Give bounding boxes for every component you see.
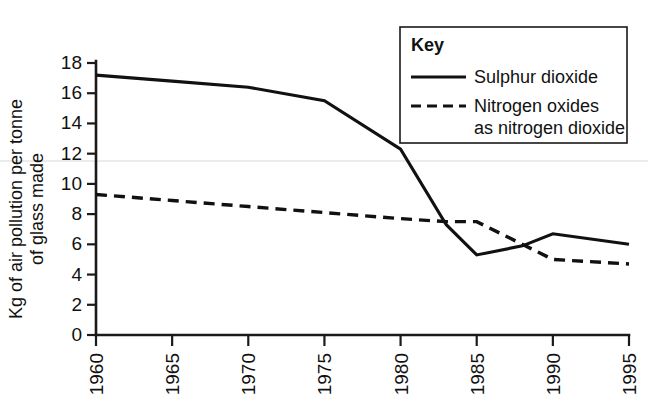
y-axis-title-line: Kg of air pollution per tonne [6,99,26,319]
y-tick-label: 18 [61,52,82,73]
x-tick-label: 1970 [238,353,259,395]
chart-canvas: 024681012141618 196019651970197519801985… [0,0,648,411]
y-tick-label: 6 [71,233,82,254]
line-chart: 024681012141618 196019651970197519801985… [0,0,648,411]
y-axis-title: Kg of air pollution per tonneof glass ma… [6,99,47,319]
y-tick-label: 0 [71,324,82,345]
y-tick-label: 4 [71,264,82,285]
x-tick-label: 1965 [162,353,183,395]
x-tick-label: 1995 [619,353,640,395]
x-tick-label: 1990 [543,353,564,395]
y-tick-label: 10 [61,173,82,194]
legend: KeySulphur dioxideNitrogen oxidesas nitr… [400,27,627,143]
y-tick-label: 8 [71,203,82,224]
y-axis-title-line: of glass made [27,153,47,265]
y-tick-label: 2 [71,294,82,315]
y-tick-label: 12 [61,143,82,164]
series-line-dashed [96,194,629,264]
legend-label-nitrogen-oxides-line2: as nitrogen dioxide [474,118,625,138]
y-axis: 024681012141618 [61,52,96,345]
x-tick-label: 1960 [86,353,107,395]
y-tick-label: 14 [61,112,83,133]
legend-label-sulphur-dioxide: Sulphur dioxide [474,67,598,87]
x-tick-label: 1975 [314,353,335,395]
y-tick-label: 16 [61,82,82,103]
legend-title: Key [411,35,444,55]
legend-label-nitrogen-oxides-line1: Nitrogen oxides [474,96,599,116]
x-axis: 19601965197019751980198519901995 [86,335,640,395]
x-tick-label: 1985 [467,353,488,395]
x-tick-label: 1980 [391,353,412,395]
